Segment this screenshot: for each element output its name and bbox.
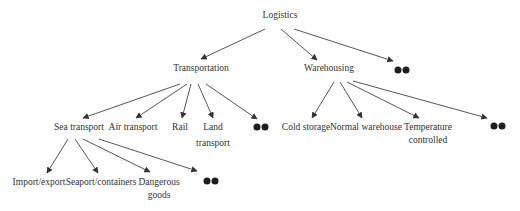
more-warehousing-ellipsis-icon bbox=[491, 123, 506, 130]
edge-transportation-rail bbox=[182, 84, 191, 118]
node-air-transport: Air transport bbox=[109, 121, 158, 134]
more-sea-ellipsis-icon bbox=[204, 178, 219, 185]
node-label: Import/export bbox=[13, 177, 66, 187]
logistics-tree-diagram: Logistics Transportation Warehousing Sea… bbox=[0, 0, 520, 211]
edge-sea-more bbox=[99, 139, 197, 171]
node-label: Sea transport bbox=[54, 122, 104, 132]
node-label-line2: controlled bbox=[404, 134, 452, 147]
edge-transportation-land bbox=[198, 84, 213, 118]
dot-icon bbox=[212, 178, 219, 185]
dot-icon bbox=[499, 123, 506, 130]
more-level1-ellipsis-icon bbox=[395, 67, 410, 74]
node-label: Rail bbox=[172, 122, 188, 132]
dot-icon bbox=[262, 124, 269, 131]
dot-icon bbox=[403, 67, 410, 74]
node-label: Air transport bbox=[109, 122, 158, 132]
edge-sea-seaport bbox=[75, 139, 98, 173]
node-label-line1: Temperature bbox=[404, 121, 452, 134]
node-label-line1: Dangerous bbox=[138, 176, 179, 189]
dot-icon bbox=[254, 124, 261, 131]
node-land-transport: Land transport bbox=[196, 121, 230, 150]
node-label: Transportation bbox=[173, 63, 229, 73]
edge-transportation-air bbox=[136, 84, 187, 118]
node-temperature-controlled: Temperature controlled bbox=[404, 121, 452, 147]
edge-warehousing-temp bbox=[347, 82, 419, 118]
node-warehousing: Warehousing bbox=[304, 62, 354, 75]
edge-logistics-warehousing bbox=[281, 29, 317, 60]
node-cold-storage: Cold storage bbox=[282, 121, 330, 134]
dot-icon bbox=[204, 178, 211, 185]
node-label-line2: goods bbox=[138, 189, 179, 202]
node-rail: Rail bbox=[172, 121, 188, 134]
node-label: Logistics bbox=[263, 10, 298, 20]
node-label: Cold storage bbox=[282, 122, 330, 132]
edge-warehousing-more bbox=[353, 81, 487, 118]
node-label-line2: transport bbox=[196, 137, 230, 150]
more-transportation-ellipsis-icon bbox=[254, 124, 269, 131]
node-label: Seaport/containers bbox=[66, 177, 137, 187]
node-normal-warehouse: Normal warehouse bbox=[330, 121, 402, 134]
node-label: Normal warehouse bbox=[330, 122, 402, 132]
node-seaport-containers: Seaport/containers bbox=[66, 176, 137, 189]
node-logistics: Logistics bbox=[263, 9, 298, 22]
node-label-line1: Land bbox=[196, 121, 230, 134]
dot-icon bbox=[491, 123, 498, 130]
edge-logistics-more bbox=[294, 29, 393, 61]
node-import-export: Import/export bbox=[13, 176, 66, 189]
edge-sea-import bbox=[47, 139, 68, 173]
dot-icon bbox=[395, 67, 402, 74]
node-sea-transport: Sea transport bbox=[54, 121, 104, 134]
node-transportation: Transportation bbox=[173, 62, 229, 75]
edge-warehousing-cold bbox=[312, 82, 334, 118]
edge-transportation-sea bbox=[83, 84, 180, 118]
edge-logistics-transportation bbox=[201, 29, 265, 59]
edge-transportation-more bbox=[206, 84, 257, 119]
node-dangerous-goods: Dangerous goods bbox=[138, 176, 179, 202]
node-label: Warehousing bbox=[304, 63, 354, 73]
edge-sea-dangerous bbox=[83, 139, 150, 172]
